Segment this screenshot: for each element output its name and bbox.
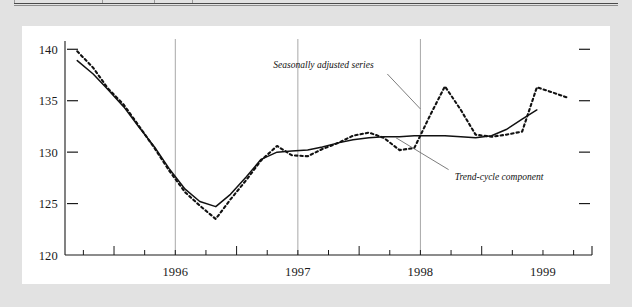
annotation-seasonally-adjusted: Seasonally adjusted series [273, 60, 374, 70]
series-trend-cycle [77, 61, 537, 207]
leader-line-trend-cycle [396, 138, 449, 170]
y-tick-label-120: 120 [39, 249, 58, 263]
x-tick-label-1997: 1997 [285, 265, 311, 279]
leader-line-seasonally-adjusted [387, 74, 420, 109]
chart-card: 1201251301351401996199719981999Seasonall… [22, 26, 610, 284]
page-top-rule [14, 3, 618, 4]
x-tick-label-1998: 1998 [408, 265, 434, 279]
x-tick-label-1996: 1996 [162, 265, 188, 279]
line-chart: 1201251301351401996199719981999Seasonall… [22, 26, 610, 284]
y-tick-label-140: 140 [39, 43, 58, 57]
y-tick-label-135: 135 [39, 94, 58, 108]
annotation-trend-cycle: Trend-cycle component [455, 172, 544, 182]
y-tick-label-130: 130 [39, 146, 58, 160]
figure-root: 1201251301351401996199719981999Seasonall… [0, 0, 632, 307]
x-tick-label-1999: 1999 [530, 265, 556, 279]
page-top-rule-shadow [14, 5, 618, 6]
y-tick-label-125: 125 [39, 197, 58, 211]
